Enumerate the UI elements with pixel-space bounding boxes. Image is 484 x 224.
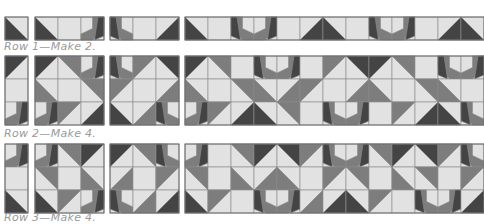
quilt-cell — [346, 17, 369, 40]
quilt-cell — [415, 56, 438, 79]
quilt-cell — [5, 79, 28, 102]
quilt-cell — [300, 102, 323, 125]
quilt-cell — [58, 167, 81, 190]
quilt-cell — [58, 17, 81, 40]
quilt-cell — [133, 17, 156, 40]
quilt-cell — [133, 167, 156, 190]
quilt-cell — [5, 167, 28, 190]
quilt-cell — [58, 79, 81, 102]
quilt-cell — [369, 102, 392, 125]
quilt-cell — [133, 79, 156, 102]
quilt-cell — [208, 17, 231, 40]
row-2-label: Row 2—Make 4. — [4, 127, 96, 140]
quilt-cell — [392, 190, 415, 213]
row-1-label: Row 1—Make 2. — [4, 40, 96, 53]
quilt-cell — [392, 79, 415, 102]
quilt-cell — [208, 144, 231, 167]
quilt-cell — [231, 190, 254, 213]
quilt-cell — [208, 167, 231, 190]
row-3-label: Row 3—Make 4. — [4, 211, 96, 224]
quilt-diagram — [0, 0, 484, 224]
quilt-cell — [415, 17, 438, 40]
quilt-cell — [300, 167, 323, 190]
quilt-cell — [438, 167, 461, 190]
quilt-cell — [300, 56, 323, 79]
quilt-cell — [231, 56, 254, 79]
quilt-cell — [277, 17, 300, 40]
quilt-cell — [323, 79, 346, 102]
quilt-cell — [208, 79, 231, 102]
quilt-cell — [369, 167, 392, 190]
quilt-cell — [461, 79, 484, 102]
